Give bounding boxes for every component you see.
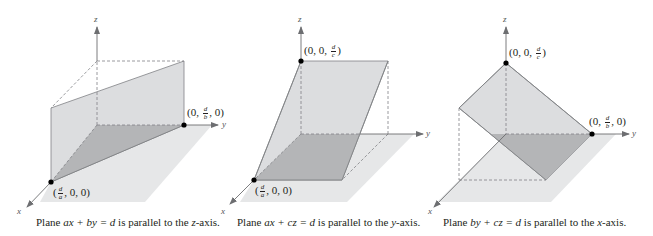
- fraction: da: [58, 186, 64, 201]
- label-suffix: , 0): [611, 115, 626, 127]
- intercept-point-z: [298, 58, 303, 63]
- fraction-denominator: a: [261, 192, 265, 199]
- caption-end: -axis.: [396, 216, 420, 228]
- x-axis-label: x: [17, 206, 21, 216]
- x-axis-label: x: [428, 206, 432, 216]
- label-suffix: , 0): [209, 106, 224, 118]
- intercept-point-y: [181, 122, 186, 127]
- caption-equation: ax + by = d: [63, 216, 115, 228]
- caption-end: -axis.: [196, 216, 220, 228]
- label-prefix: (: [53, 186, 57, 198]
- fraction: dc: [331, 44, 337, 59]
- z-axis-label: z: [298, 14, 302, 24]
- fraction-denominator: a: [59, 194, 63, 201]
- z-axis-label: z: [94, 14, 98, 24]
- label-prefix: (0,: [187, 106, 202, 118]
- label-suffix: , 0, 0): [266, 184, 292, 196]
- intercept-point-y: [589, 131, 594, 136]
- diagram-canvas: [0, 0, 653, 236]
- caption-prefix: Plane: [237, 216, 264, 228]
- caption-diagram-1: Plane ax + by = d is parallel to the z-a…: [36, 216, 220, 228]
- caption-equation: ax + cz = d: [264, 216, 315, 228]
- fraction: db: [605, 115, 611, 130]
- caption-diagram-3: Plane by + cz = d is parallel to the x-a…: [443, 216, 626, 228]
- y-axis-label: y: [632, 128, 636, 138]
- fraction: db: [203, 106, 209, 121]
- point-label-x-intercept: (da, 0, 0): [53, 186, 90, 201]
- label-prefix: (0, 0,: [509, 46, 535, 58]
- caption-text: is parallel to the: [315, 216, 391, 228]
- fraction-denominator: b: [606, 123, 610, 130]
- fraction-denominator: c: [537, 54, 540, 61]
- point-label-z-intercept: (0, 0, dc): [304, 44, 341, 59]
- caption-diagram-2: Plane ax + cz = d is parallel to the y-a…: [237, 216, 420, 228]
- caption-prefix: Plane: [36, 216, 63, 228]
- x-axis-label: x: [221, 206, 225, 216]
- label-prefix: (0, 0,: [304, 44, 330, 56]
- label-prefix: (0,: [589, 115, 604, 127]
- point-label-y-intercept: (0, db, 0): [589, 115, 626, 130]
- intercept-point-z: [503, 60, 508, 65]
- y-axis-label: y: [426, 128, 430, 138]
- caption-equation: by + cz = d: [470, 216, 521, 228]
- caption-text: is parallel to the: [521, 216, 597, 228]
- point-label-x-intercept: (da, 0, 0): [255, 184, 292, 199]
- fraction: dc: [536, 46, 542, 61]
- point-label-z-intercept: (0, 0, dc): [509, 46, 546, 61]
- fraction-denominator: b: [204, 114, 208, 121]
- label-suffix: ): [542, 46, 546, 58]
- z-axis-label: z: [503, 14, 507, 24]
- label-suffix: , 0, 0): [64, 186, 90, 198]
- label-suffix: ): [337, 44, 341, 56]
- caption-prefix: Plane: [443, 216, 470, 228]
- point-label-y-intercept: (0, db, 0): [187, 106, 224, 121]
- fraction: da: [260, 184, 266, 199]
- label-prefix: (: [255, 184, 259, 196]
- intercept-point-x: [251, 177, 256, 182]
- intercept-point-x: [48, 179, 53, 184]
- caption-text: is parallel to the: [115, 216, 191, 228]
- fraction-denominator: c: [332, 52, 335, 59]
- caption-end: -axis.: [602, 216, 626, 228]
